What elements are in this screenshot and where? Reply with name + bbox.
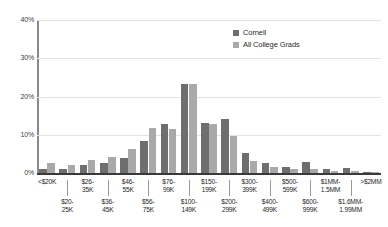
bar: [161, 124, 169, 173]
bar: [108, 157, 116, 173]
bar: [88, 160, 96, 173]
bar: [351, 171, 359, 173]
bar: [290, 169, 298, 173]
bar: [242, 153, 250, 173]
x-axis-tick-label: $200- 299K: [209, 198, 249, 214]
bar: [302, 162, 310, 173]
x-axis-tick-label: $56- 75K: [128, 198, 168, 214]
bar-group: [120, 20, 136, 173]
bar: [80, 165, 88, 173]
bar: [230, 136, 238, 173]
y-axis-tick-label: 20%: [0, 93, 34, 100]
chart-legend: Cornell All College Grads: [233, 27, 300, 51]
bar-group: [343, 20, 359, 173]
bar-group: [181, 20, 197, 173]
bar: [39, 169, 47, 173]
bar: [262, 163, 270, 173]
x-axis-tick-label: $76- 99K: [148, 178, 188, 194]
bar: [149, 128, 157, 173]
bar: [181, 84, 189, 173]
x-axis-tick-label: $20- 25K: [47, 198, 87, 214]
y-axis-tick-label: 30%: [0, 54, 34, 61]
income-distribution-bar-chart: 40%30%20%10%0% Cornell All College Grads…: [0, 0, 388, 227]
legend-item-cornell: Cornell: [233, 27, 300, 38]
bar-group: [39, 20, 55, 173]
bar: [282, 167, 290, 173]
x-axis-tick-label: $26- 35K: [67, 178, 107, 194]
x-axis-tick-label: $1.6MM- 1.99MM: [330, 198, 370, 214]
bar: [323, 169, 331, 173]
bar: [100, 163, 108, 173]
axis-baseline: [37, 173, 381, 175]
legend-label-cornell: Cornell: [243, 28, 266, 37]
x-axis-tick-label: $400- 499K: [249, 198, 289, 214]
x-axis-tick-label: $500- 599K: [270, 178, 310, 194]
x-axis-tick-label: <$20K: [27, 178, 67, 186]
legend-label-all-college-grads: All College Grads: [243, 40, 300, 49]
bar: [59, 169, 67, 173]
y-axis-tick-labels: 40%30%20%10%0%: [0, 0, 34, 227]
bar-group: [80, 20, 96, 173]
y-axis-tick-label: 10%: [0, 131, 34, 138]
legend-swatch-icon-all-college-grads: [233, 42, 239, 48]
bar: [363, 172, 371, 173]
y-axis-tick-label: 0%: [0, 169, 34, 176]
bar-group: [161, 20, 177, 173]
x-axis-tick-label: $300- 399K: [229, 178, 269, 194]
bar: [120, 158, 128, 173]
x-axis-tick-label: $150- 199K: [189, 178, 229, 194]
x-axis-tick-label: $600- 999K: [290, 198, 330, 214]
bar-group: [59, 20, 75, 173]
x-axis-tick-label: >$2MM: [351, 178, 388, 186]
bar: [250, 161, 258, 173]
bar: [189, 84, 197, 174]
bar: [140, 141, 148, 173]
bar: [331, 171, 339, 173]
bar-group: [100, 20, 116, 173]
bar-group: [302, 20, 318, 173]
bar: [221, 119, 229, 173]
bar: [169, 129, 177, 173]
bar: [371, 172, 379, 173]
bar: [270, 167, 278, 173]
bars-layer: [37, 20, 381, 173]
legend-item-all-college-grads: All College Grads: [233, 39, 300, 50]
x-axis-tick-label: $100- 149K: [169, 198, 209, 214]
x-axis-tick-label: $36- 45K: [88, 198, 128, 214]
bar: [343, 168, 351, 173]
y-axis-tick-label: 40%: [0, 16, 34, 23]
bar: [310, 169, 318, 173]
bar: [68, 165, 76, 173]
legend-swatch-icon-cornell: [233, 30, 239, 36]
x-axis-tick-labels: <$20K$20- 25K$26- 35K$36- 45K$46- 55K$56…: [37, 176, 381, 227]
bar: [128, 149, 136, 173]
bar-group: [363, 20, 379, 173]
bar: [209, 124, 217, 173]
bar-group: [323, 20, 339, 173]
x-axis-tick-label: $1MM- 1.5MM: [310, 178, 350, 194]
bar: [201, 123, 209, 173]
plot-area: [37, 20, 381, 173]
bar: [47, 163, 55, 173]
bar-group: [201, 20, 217, 173]
x-axis-tick-label: $46- 55K: [108, 178, 148, 194]
bar-group: [140, 20, 156, 173]
